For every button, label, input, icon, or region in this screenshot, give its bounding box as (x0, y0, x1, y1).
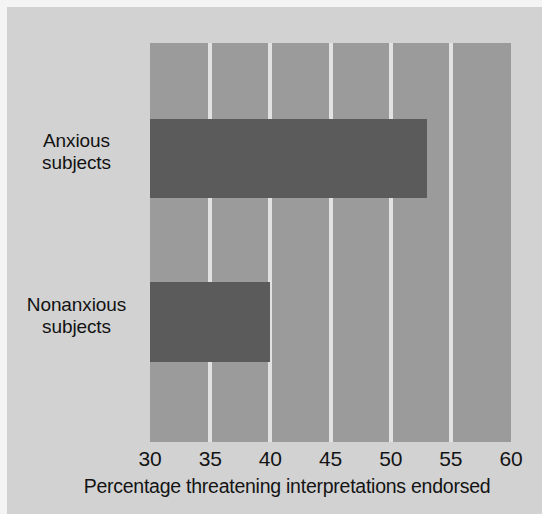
x-tick-label-50: 50 (367, 447, 415, 471)
category-label-nonanxious-line1: Nonanxious (27, 294, 126, 315)
x-tick-label-30: 30 (126, 447, 174, 471)
bar-nonanxious (150, 282, 270, 362)
gridline-35 (208, 43, 212, 442)
plot-area (150, 43, 511, 442)
figure-panel: Anxious subjects Nonanxious subjects 303… (7, 7, 542, 514)
x-axis-tick-labels: 30354045505560 (150, 447, 511, 473)
category-label-anxious-line2: subjects (11, 152, 142, 174)
gridline-50 (389, 43, 393, 442)
x-axis-title: Percentage threatening interpretations e… (7, 475, 542, 498)
gridline-45 (329, 43, 333, 442)
category-label-nonanxious: Nonanxious subjects (11, 294, 142, 338)
category-label-nonanxious-line2: subjects (11, 316, 142, 338)
x-tick-label-60: 60 (487, 447, 535, 471)
category-label-anxious: Anxious subjects (11, 130, 142, 174)
x-tick-label-45: 45 (307, 447, 355, 471)
x-tick-label-55: 55 (427, 447, 475, 471)
bar-anxious (150, 119, 427, 198)
gridline-40 (268, 43, 272, 442)
x-tick-label-40: 40 (246, 447, 294, 471)
category-label-anxious-line1: Anxious (43, 130, 110, 151)
bar-chart-figure: Anxious subjects Nonanxious subjects 303… (0, 0, 542, 514)
gridline-55 (449, 43, 453, 442)
x-tick-label-35: 35 (186, 447, 234, 471)
